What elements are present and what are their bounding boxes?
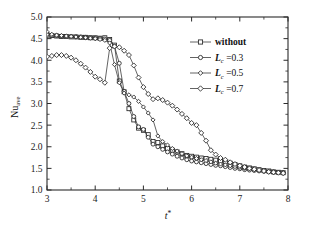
data-marker xyxy=(146,135,150,139)
series-line xyxy=(47,35,283,173)
data-marker xyxy=(117,45,122,50)
x-tick-label: 6 xyxy=(189,194,194,204)
data-series-group xyxy=(45,30,286,176)
data-marker xyxy=(151,142,155,146)
axis-tick-labels: 3456781.01.52.02.53.03.54.04.55.0 xyxy=(31,12,291,203)
legend-item-2: Lc =0.5 xyxy=(190,68,244,79)
data-marker xyxy=(127,93,131,97)
series-Lc_0_3 xyxy=(45,32,285,175)
x-tick-label: 5 xyxy=(141,194,146,204)
series-Lc_0_7 xyxy=(45,44,286,176)
data-marker xyxy=(98,77,103,82)
y-tick-label: 1.5 xyxy=(31,164,43,174)
data-marker xyxy=(102,80,107,85)
legend-item-1: Lc =0.3 xyxy=(190,53,244,64)
y-axis-title: Nuave xyxy=(9,97,21,118)
data-marker xyxy=(198,55,202,59)
data-marker xyxy=(112,63,116,67)
data-marker xyxy=(198,71,203,76)
y-tick-label: 3.0 xyxy=(31,99,43,109)
data-marker xyxy=(175,154,179,158)
data-marker xyxy=(45,54,50,59)
legend-item-0: without xyxy=(190,37,247,47)
x-tick-label: 8 xyxy=(286,194,291,204)
y-tick-label: 5.0 xyxy=(31,12,43,22)
data-marker xyxy=(199,130,204,135)
data-marker xyxy=(141,128,145,132)
x-tick-label: 7 xyxy=(237,194,242,204)
data-marker xyxy=(198,86,203,91)
data-marker xyxy=(156,145,160,149)
x-tick-label: 3 xyxy=(45,194,50,204)
nusselt-vs-time-chart: 3456781.01.52.02.53.03.54.04.55.0 withou… xyxy=(0,0,310,227)
legend-item-3: Lc =0.7 xyxy=(190,84,244,95)
data-marker xyxy=(156,140,160,144)
legend-label: Lc =0.5 xyxy=(214,68,244,79)
data-marker xyxy=(161,147,165,151)
data-marker xyxy=(132,115,136,119)
y-tick-label: 1.0 xyxy=(31,185,43,195)
data-marker xyxy=(131,63,136,68)
y-tick-label: 2.0 xyxy=(31,142,43,152)
series-without xyxy=(45,33,285,175)
legend-label: Lc =0.3 xyxy=(214,53,244,64)
y-tick-label: 3.5 xyxy=(31,77,43,87)
data-marker xyxy=(141,85,146,90)
data-marker xyxy=(137,125,141,129)
data-marker xyxy=(180,156,184,160)
data-marker xyxy=(127,102,131,106)
series-line xyxy=(47,46,283,173)
data-marker xyxy=(165,100,170,105)
series-line xyxy=(47,34,283,173)
x-tick-label: 4 xyxy=(93,194,98,204)
legend-label: without xyxy=(215,37,247,47)
data-marker xyxy=(73,58,78,63)
figure-container: 3456781.01.52.02.53.03.54.04.55.0 withou… xyxy=(0,0,310,227)
data-marker xyxy=(204,138,209,143)
data-marker xyxy=(194,123,199,128)
y-tick-label: 4.5 xyxy=(31,34,43,44)
y-tick-label: 4.0 xyxy=(31,56,43,66)
data-marker xyxy=(166,150,170,154)
data-marker xyxy=(136,75,141,80)
data-marker xyxy=(170,152,174,156)
data-marker xyxy=(59,53,64,58)
data-marker xyxy=(117,61,121,65)
data-marker xyxy=(49,53,54,58)
chart-legend: withoutLc =0.3Lc =0.5Lc =0.7 xyxy=(190,37,247,95)
data-marker xyxy=(198,40,202,44)
x-axis-title: t* xyxy=(165,209,172,221)
legend-label: Lc =0.7 xyxy=(214,84,244,95)
y-tick-label: 2.5 xyxy=(31,121,43,131)
